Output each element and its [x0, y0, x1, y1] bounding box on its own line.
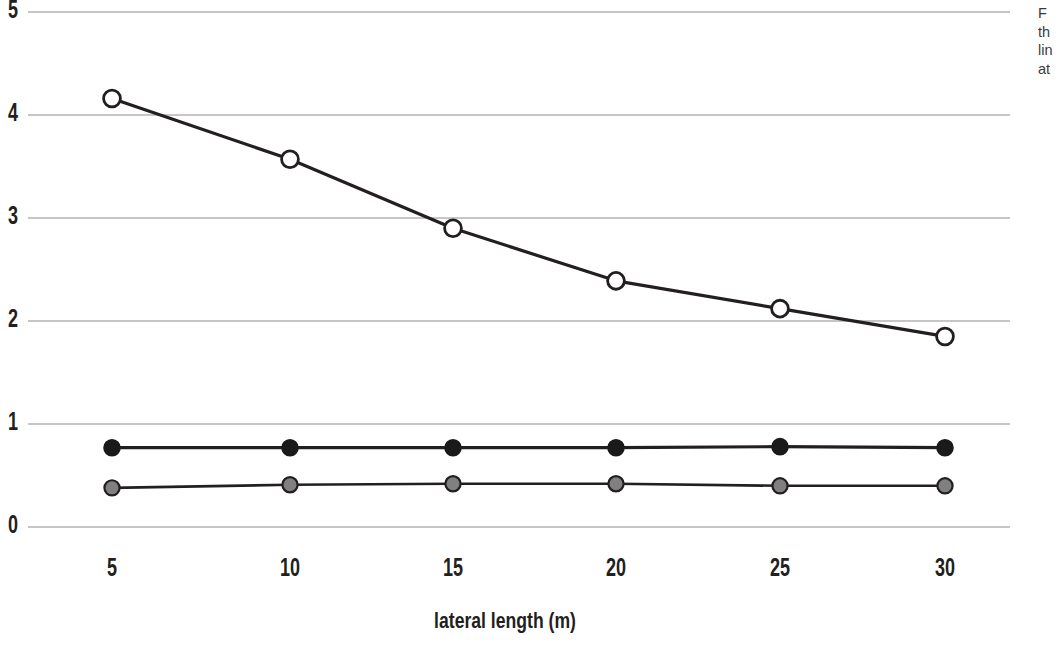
series-line-filled-gray-circle-series — [112, 484, 945, 488]
line-chart — [0, 0, 1060, 652]
y-tick-label-3: 3 — [0, 201, 18, 230]
y-tick-label-0: 0 — [0, 510, 18, 539]
data-point-marker — [937, 478, 952, 493]
data-point-marker — [104, 440, 120, 456]
data-point-marker — [937, 328, 954, 345]
figure-root: 012345 51015202530 lateral length (m) Ft… — [0, 0, 1060, 652]
data-point-marker — [937, 440, 953, 456]
x-axis-title: lateral length (m) — [101, 608, 909, 634]
data-point-marker — [282, 151, 299, 168]
data-point-marker — [445, 220, 462, 237]
x-tick-label-5: 5 — [83, 553, 141, 582]
series-line-filled-black-circle-series — [112, 447, 945, 448]
data-point-marker — [282, 477, 297, 492]
data-point-marker — [772, 439, 788, 455]
data-point-marker — [282, 440, 298, 456]
series-filled-gray-circle-series — [104, 476, 952, 495]
data-point-marker — [104, 90, 121, 107]
series-filled-black-circle-series — [104, 439, 953, 456]
y-tick-label-2: 2 — [0, 304, 18, 333]
data-point-marker — [608, 440, 624, 456]
caption-line-3: lin — [1038, 41, 1060, 60]
gridlines — [28, 12, 1010, 527]
data-point-marker — [104, 480, 119, 495]
x-tick-label-30: 30 — [916, 553, 974, 582]
data-point-marker — [772, 300, 789, 317]
caption-line-1: F — [1038, 4, 1060, 23]
y-tick-label-1: 1 — [0, 407, 18, 436]
chart-canvas — [0, 0, 1060, 652]
x-tick-label-10: 10 — [261, 553, 319, 582]
x-tick-label-25: 25 — [751, 553, 809, 582]
caption-line-2: th — [1038, 23, 1060, 42]
x-tick-label-15: 15 — [424, 553, 482, 582]
x-tick-label-20: 20 — [587, 553, 645, 582]
data-point-marker — [608, 476, 623, 491]
y-tick-label-4: 4 — [0, 98, 18, 127]
data-point-marker — [445, 440, 461, 456]
caption-line-4: at — [1038, 60, 1060, 79]
data-point-marker — [772, 478, 787, 493]
data-point-marker — [445, 476, 460, 491]
figure-caption-clipped: Fthlinat — [1038, 4, 1060, 78]
series-layer — [104, 90, 954, 495]
y-tick-label-5: 5 — [0, 0, 18, 24]
data-point-marker — [608, 272, 625, 289]
